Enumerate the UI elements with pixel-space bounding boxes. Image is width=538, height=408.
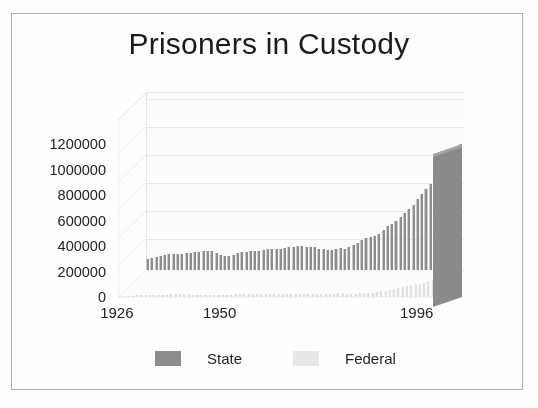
bar-body (409, 285, 412, 297)
bar-federal (161, 295, 164, 297)
bar-federal (122, 296, 125, 297)
bar-body (422, 283, 425, 297)
bar-federal (315, 294, 318, 297)
bar-body (358, 293, 361, 297)
bar-body (324, 294, 327, 297)
bar-body (204, 295, 207, 297)
bar-federal (324, 294, 327, 297)
bar-federal (191, 295, 194, 297)
bar-body (418, 284, 421, 297)
bar-federal (127, 296, 130, 297)
series-3d-endcap (433, 92, 473, 307)
y-axis: 020000040000060000080000010000001200000 (18, 92, 106, 297)
bar-federal (251, 294, 254, 297)
bar-federal (259, 294, 262, 297)
bar-federal (174, 294, 177, 297)
bar-federal (281, 294, 284, 297)
bar-body (315, 294, 318, 297)
bar-federal (225, 295, 228, 297)
bar-federal (379, 291, 382, 297)
bar-body (161, 295, 164, 297)
bar-federal (217, 295, 220, 297)
bar-body (169, 294, 172, 297)
bar-body (131, 296, 134, 297)
bar-federal (328, 294, 331, 297)
chart-title: Prisoners in Custody (0, 27, 538, 61)
bar-federal (204, 295, 207, 297)
bar-federal (234, 294, 237, 297)
bar-federal (208, 295, 211, 297)
y-axis-tick-label: 400000 (58, 239, 106, 254)
bar-federal (212, 295, 215, 297)
bar-body (388, 290, 391, 297)
y-axis-tick-label: 600000 (58, 214, 106, 229)
bar-federal (247, 294, 250, 297)
bar-federal (118, 296, 121, 297)
bar-body (174, 294, 177, 297)
bar-federal (319, 294, 322, 297)
bar-body (345, 294, 348, 297)
bar-body (281, 294, 284, 297)
legend-label: State (207, 350, 242, 367)
bar-federal (371, 293, 374, 297)
bar-federal (139, 295, 142, 297)
bar-body (144, 295, 147, 297)
bar-body (182, 294, 185, 297)
bar-federal (255, 294, 258, 297)
bar-body (268, 294, 271, 297)
bar-body (396, 288, 399, 297)
bar-body (234, 294, 237, 297)
bar-body (217, 295, 220, 297)
bar-federal (169, 294, 172, 297)
bar-body (277, 294, 280, 297)
bar-federal (341, 293, 344, 297)
bar-federal (336, 293, 339, 297)
bar-federal (366, 293, 369, 297)
bar-body (178, 294, 181, 297)
bar-body (127, 296, 130, 297)
bar-body (414, 284, 417, 297)
bar-body (148, 295, 151, 297)
bar-federal (426, 281, 429, 297)
bar-body (242, 294, 245, 297)
bar-body (118, 296, 121, 297)
bar-body (401, 287, 404, 297)
bar-federal (148, 295, 151, 297)
legend-item-state[interactable]: State (155, 350, 242, 367)
legend-swatch-icon (293, 351, 319, 366)
bar-body (384, 291, 387, 297)
bar-federal (294, 294, 297, 297)
bar-body (306, 294, 309, 297)
bar-federal (392, 289, 395, 297)
y-axis-tick-label: 0 (98, 290, 106, 305)
bar-federal (375, 292, 378, 297)
bar-body (157, 295, 160, 297)
bar-federal (384, 291, 387, 297)
bar-body (405, 286, 408, 297)
bar-body (366, 293, 369, 297)
bar-body (371, 293, 374, 297)
bar-body (229, 295, 232, 297)
bar-federal (135, 295, 138, 297)
bar-body (199, 295, 202, 297)
bar-body (332, 294, 335, 297)
bar-federal (268, 294, 271, 297)
bar-federal (422, 283, 425, 297)
bar-federal (409, 285, 412, 297)
bar-body (272, 294, 275, 297)
legend-item-federal[interactable]: Federal (293, 350, 396, 367)
bar-federal (152, 295, 155, 297)
bar-federal (401, 287, 404, 297)
bar-federal (182, 294, 185, 297)
x-axis-tick-label: 1950 (203, 305, 236, 320)
bar-federal (144, 295, 147, 297)
bar-body (302, 294, 305, 297)
bar-body (135, 295, 138, 297)
bar-body (191, 295, 194, 297)
bar-body (195, 295, 198, 297)
bar-federal (195, 295, 198, 297)
bar-body (341, 293, 344, 297)
plot-area (118, 92, 463, 297)
bar-body (311, 294, 314, 297)
bar-federal (264, 294, 267, 297)
